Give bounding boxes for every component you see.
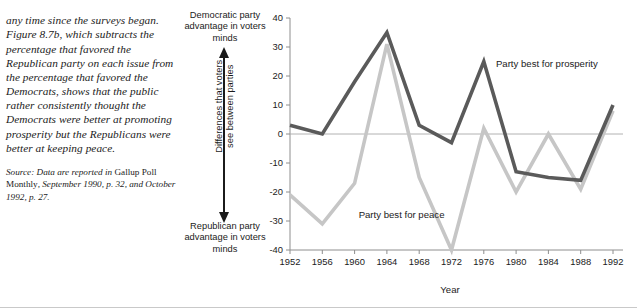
body-paragraph: any time since the surveys began. Figure… (6, 13, 178, 155)
y-tick-label: -30 (269, 215, 283, 226)
axis-annotation-line2: see between parties (225, 26, 236, 186)
y-tick-label: 30 (273, 41, 283, 52)
y-tick-label: -40 (269, 244, 283, 255)
y-tick-label: 0 (278, 128, 283, 139)
narrative-column: any time since the surveys began. Figure… (6, 2, 178, 212)
x-tick-label: 1952 (280, 256, 301, 267)
axis-annotation-line1: Differences that voters (214, 26, 225, 186)
axis-annotation-label: Differences that voters see between part… (214, 26, 237, 186)
x-tick-label: 1976 (473, 256, 494, 267)
x-tick-label: 1980 (506, 256, 527, 267)
series-label: Party best for peace (359, 209, 445, 220)
x-tick-label: 1988 (570, 256, 591, 267)
x-tick-label: 1968 (409, 256, 430, 267)
line-chart: 403020100-10-20-30-40 195219561960196419… (258, 0, 637, 308)
x-axis-title: Year (440, 284, 460, 295)
y-tick-label: 40 (273, 12, 283, 23)
y-tick-label: 20 (273, 70, 283, 81)
figure-page: any time since the surveys began. Figure… (0, 0, 637, 308)
y-tick-label: 10 (273, 99, 283, 110)
x-tick-label: 1956 (312, 256, 333, 267)
x-tick-label: 1984 (538, 256, 559, 267)
x-tick-label: 1972 (441, 256, 462, 267)
x-tick-label: 1964 (376, 256, 397, 267)
series-line (290, 44, 613, 250)
x-tick-label: 1960 (344, 256, 365, 267)
x-tick-label: 1992 (603, 256, 624, 267)
source-prefix: Source: Data are reported in (6, 167, 114, 177)
y-axis: 403020100-10-20-30-40 (269, 12, 290, 255)
y-tick-label: -10 (269, 157, 283, 168)
y-tick-label: -20 (269, 186, 283, 197)
chart-canvas: 403020100-10-20-30-40 195219561960196419… (258, 0, 637, 308)
series-label: Party best for prosperity (496, 58, 598, 69)
source-note: Source: Data are reported in Gallup Poll… (6, 166, 178, 203)
